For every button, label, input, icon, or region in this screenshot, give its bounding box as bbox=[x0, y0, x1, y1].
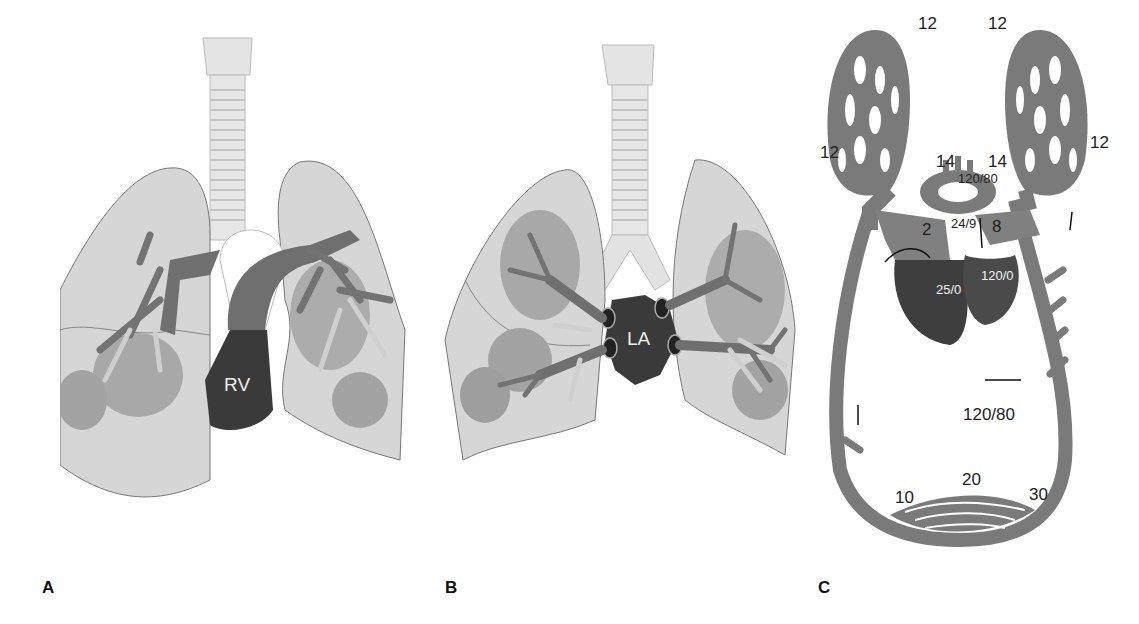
pressure-pulmonary-artery: 24/9 bbox=[951, 216, 976, 231]
pressure-lung-top-left: 12 bbox=[918, 14, 937, 34]
pressure-aorta: 120/80 bbox=[958, 171, 998, 186]
pressure-capillary-middle: 20 bbox=[962, 470, 981, 490]
pressure-lung-top-right: 12 bbox=[988, 14, 1007, 34]
pressure-pa-branch-left: 14 bbox=[936, 152, 955, 172]
panel-c-pressure-circuit: 12 12 12 12 14 14 120/80 24/9 2 8 25/0 1… bbox=[800, 0, 1139, 624]
panel-label-b: B bbox=[445, 578, 457, 598]
lungs-arterial-illustration bbox=[60, 0, 440, 624]
pressure-capillary-arterial-end: 30 bbox=[1029, 485, 1048, 505]
left-atrium-label: LA bbox=[627, 328, 650, 350]
lungs-venous-illustration bbox=[430, 0, 830, 624]
pressure-right-ventricle: 25/0 bbox=[936, 282, 961, 297]
trachea-icon bbox=[203, 38, 252, 240]
pressure-pa-branch-right: 14 bbox=[988, 152, 1007, 172]
pressure-capillary-venous-end: 10 bbox=[895, 488, 914, 508]
panel-a-pulmonary-arteries: RV A bbox=[60, 0, 440, 624]
pressure-right-atrium: 2 bbox=[922, 220, 931, 240]
panel-label-a: A bbox=[42, 578, 54, 598]
pressure-left-ventricle: 120/0 bbox=[981, 268, 1014, 283]
panel-b-pulmonary-veins: LA B bbox=[430, 0, 830, 624]
pressure-systemic-artery: 120/80 bbox=[963, 405, 1015, 425]
pressure-left-atrium: 8 bbox=[992, 217, 1001, 237]
circulation-diagram bbox=[800, 0, 1139, 624]
right-ventricle-label: RV bbox=[224, 374, 250, 396]
pressure-lung-left: 12 bbox=[820, 143, 839, 163]
panel-label-c: C bbox=[818, 578, 830, 598]
pressure-lung-right: 12 bbox=[1090, 133, 1109, 153]
